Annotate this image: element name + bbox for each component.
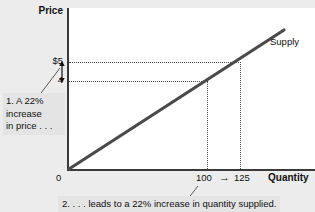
- annotation-price-increase: 1. A 22% increase in price . . .: [3, 93, 65, 135]
- annotation-price-line-2: increase: [6, 108, 62, 121]
- annotation-price-line-3: in price . . .: [6, 120, 62, 133]
- annotation-price-line-1: 1. A 22%: [6, 95, 62, 108]
- supply-curve-figure: Price Quantity Supply $5 4 0 100 → 125 1…: [0, 0, 315, 212]
- annotation-quantity-increase: 2. . . . leads to a 22% increase in quan…: [58, 196, 280, 212]
